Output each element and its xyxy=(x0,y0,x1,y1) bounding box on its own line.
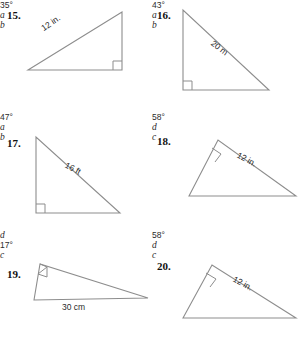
triangle-figure-18 xyxy=(152,112,304,230)
problem-15: 15. 12 in. 35° a b xyxy=(0,0,152,112)
triangle-figure-15 xyxy=(0,0,152,112)
triangle-outline-15 xyxy=(28,12,122,70)
problem-19: 19. d 17° c 30 cm xyxy=(0,230,152,337)
triangle-figure-16 xyxy=(152,0,304,112)
triangle-outline-18 xyxy=(189,140,296,196)
triangle-figure-19 xyxy=(0,230,152,337)
problem-18: 18. 12 in. 58° d c xyxy=(152,112,304,230)
right-angle-mark-16 xyxy=(183,81,192,90)
right-angle-mark-17 xyxy=(36,204,45,213)
worksheet-page: 15. 12 in. 35° a b 16. 20 m 43° a b 17. xyxy=(0,0,304,337)
right-angle-mark-15 xyxy=(113,61,122,70)
triangle-outline-20 xyxy=(183,265,296,318)
triangle-figure-20 xyxy=(152,230,304,337)
right-angle-mark-20 xyxy=(206,273,216,287)
base-label-19: 30 cm xyxy=(62,302,85,312)
triangle-outline-19 xyxy=(34,264,148,300)
problem-17: 17. 16 ft 47° a b xyxy=(0,112,152,230)
problem-20: 20. 12 in. 58° d c xyxy=(152,230,304,337)
problem-16: 16. 20 m 43° a b xyxy=(152,0,304,112)
